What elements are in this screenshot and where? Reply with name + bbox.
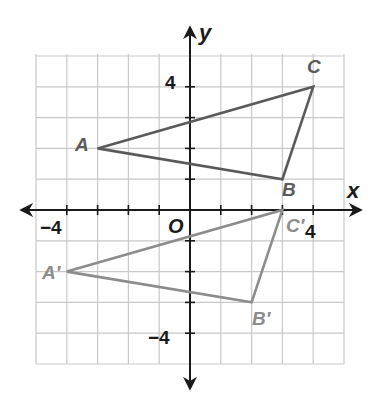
x-tick-label-4: 4 [305, 221, 316, 242]
x-axis-label: x [346, 178, 360, 203]
x-tick-label-neg4: −4 [40, 217, 62, 238]
vertex-label-c: C [307, 56, 321, 77]
y-tick-label-neg4: −4 [148, 327, 170, 348]
y-axis-label: y [198, 20, 213, 45]
vertex-label-c-prime: C′ [286, 215, 306, 236]
triangle-abc [98, 87, 314, 179]
vertex-label-b: B [282, 179, 296, 200]
coordinate-plane: x y O −4 4 4 −4 A B C A′ B′ C′ [0, 0, 389, 396]
vertex-label-a-prime: A′ [41, 262, 62, 283]
vertex-label-b-prime: B′ [252, 308, 272, 329]
vertex-label-a: A [74, 134, 89, 155]
y-tick-label-4: 4 [165, 72, 176, 93]
origin-label: O [168, 215, 184, 237]
